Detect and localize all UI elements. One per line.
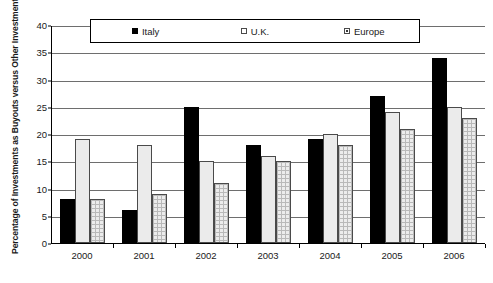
chart-legend: Italy U.K. Europe	[90, 19, 420, 43]
y-axis-tick-labels: 40 35 30 25 20 15 10 5 0	[28, 26, 51, 244]
bar-uk-2001	[137, 145, 152, 243]
filled-square-icon	[132, 28, 138, 34]
x-axis-ticks	[51, 244, 485, 249]
y-axis-title: Percentage of Investments as Buyouts ver…	[10, 32, 21, 254]
bar-group	[176, 26, 238, 243]
x-tick-mark	[361, 244, 423, 249]
figure-caption	[0, 272, 493, 283]
bar-uk-2002	[199, 161, 214, 243]
bar-italy-2006	[432, 58, 447, 243]
bar-uk-2004	[323, 134, 338, 243]
bar-group	[238, 26, 300, 243]
legend-label: Europe	[354, 26, 385, 37]
bar-italy-2003	[246, 145, 261, 243]
x-tick-label: 2002	[175, 250, 237, 264]
legend-item-uk: U.K.	[200, 26, 309, 37]
x-tick-label: 2000	[51, 250, 113, 264]
bar-italy-2000	[60, 199, 75, 243]
y-tick-label: 10	[36, 185, 47, 195]
bar-uk-2006	[447, 107, 462, 243]
y-tick-label: 5	[42, 212, 47, 222]
y-axis-title-container: Percentage of Investments as Buyouts ver…	[0, 30, 30, 255]
bar-group	[299, 26, 361, 243]
bar-italy-2001	[122, 210, 137, 243]
bar-group	[361, 26, 423, 243]
y-tick-label: 20	[36, 130, 47, 140]
y-tick-label: 0	[42, 239, 47, 249]
x-tick-mark	[423, 244, 485, 249]
bar-group	[114, 26, 176, 243]
x-axis-tick-labels: 2000 2001 2002 2003 2004 2005 2006	[51, 250, 485, 264]
bar-europe-2002	[214, 183, 229, 243]
dotted-square-icon	[344, 28, 350, 34]
bar-groups	[52, 26, 485, 243]
bar-group	[423, 26, 485, 243]
bar-chart: Percentage of Investments as Buyouts ver…	[0, 0, 493, 283]
legend-label: U.K.	[251, 26, 269, 37]
empty-square-icon	[241, 28, 247, 34]
x-tick-mark	[299, 244, 361, 249]
bar-europe-2003	[276, 161, 291, 243]
x-tick-label: 2006	[423, 250, 485, 264]
bar-europe-2004	[338, 145, 353, 243]
plot-area	[51, 26, 485, 244]
bar-europe-2005	[400, 129, 415, 243]
bar-europe-2000	[90, 199, 105, 243]
legend-label: Italy	[142, 26, 159, 37]
x-tick-mark	[51, 244, 113, 249]
bar-uk-2003	[261, 156, 276, 243]
x-tick-mark	[237, 244, 299, 249]
x-tick-label: 2001	[113, 250, 175, 264]
bar-group	[52, 26, 114, 243]
legend-item-europe: Europe	[310, 26, 419, 37]
x-tick-label: 2004	[299, 250, 361, 264]
bar-europe-2006	[462, 118, 477, 243]
bar-europe-2001	[152, 194, 167, 243]
y-tick-label: 35	[36, 48, 47, 58]
x-tick-label: 2003	[237, 250, 299, 264]
y-tick-label: 30	[36, 76, 47, 86]
x-tick-label: 2005	[361, 250, 423, 264]
bar-italy-2005	[370, 96, 385, 243]
x-tick-mark	[113, 244, 175, 249]
bar-italy-2002	[184, 107, 199, 243]
x-tick-mark	[175, 244, 237, 249]
y-tick-label: 25	[36, 103, 47, 113]
bar-italy-2004	[308, 139, 323, 243]
legend-item-italy: Italy	[91, 26, 200, 37]
y-tick-label: 15	[36, 157, 47, 167]
bar-uk-2000	[75, 139, 90, 243]
y-tick-label: 40	[36, 21, 47, 31]
bar-uk-2005	[385, 112, 400, 243]
